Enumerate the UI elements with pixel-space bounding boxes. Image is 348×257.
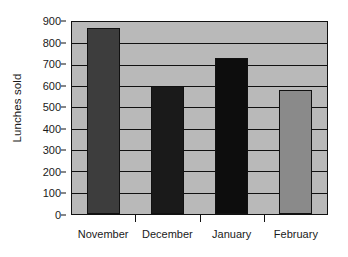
y-tick-mark	[61, 21, 66, 22]
x-tick-mark	[135, 215, 136, 222]
y-axis-ticks: 0100200300400500600700800900	[28, 21, 66, 215]
y-axis-title-label: Lunches sold	[11, 73, 23, 142]
bar-chart: Lunches sold 010020030040050060070080090…	[0, 0, 348, 257]
y-tick-mark	[61, 150, 66, 151]
y-tick-label: 800	[43, 37, 61, 48]
bar	[151, 86, 184, 214]
y-tick-mark	[61, 215, 66, 216]
bar-slot	[200, 22, 264, 214]
bar	[279, 90, 312, 214]
y-tick-label: 200	[43, 166, 61, 177]
y-tick-label: 600	[43, 80, 61, 91]
x-tick-mark	[264, 215, 265, 222]
bar-slot	[72, 22, 136, 214]
x-axis-ticks	[71, 215, 328, 223]
y-tick-mark	[61, 85, 66, 86]
x-tick-label: February	[264, 228, 328, 240]
bar	[87, 28, 120, 214]
y-tick-mark	[61, 107, 66, 108]
y-tick-mark	[61, 171, 66, 172]
y-tick-mark	[61, 64, 66, 65]
y-tick-label: 100	[43, 188, 61, 199]
plot-area	[71, 21, 328, 215]
y-tick-mark	[61, 193, 66, 194]
x-axis-labels: NovemberDecemberJanuaryFebruary	[71, 228, 328, 240]
x-tick-label: December	[135, 228, 199, 240]
x-tick-label: January	[200, 228, 264, 240]
y-tick-mark	[61, 42, 66, 43]
x-tick-mark	[200, 215, 201, 222]
bars-layer	[72, 22, 327, 214]
y-axis-title: Lunches sold	[6, 0, 28, 215]
y-tick-label: 700	[43, 59, 61, 70]
y-tick-label: 900	[43, 16, 61, 27]
bar	[215, 58, 248, 214]
y-tick-label: 300	[43, 145, 61, 156]
bar-slot	[263, 22, 327, 214]
y-tick-label: 400	[43, 123, 61, 134]
x-tick-label: November	[71, 228, 135, 240]
y-tick-mark	[61, 128, 66, 129]
y-tick-label: 500	[43, 102, 61, 113]
bar-slot	[136, 22, 200, 214]
